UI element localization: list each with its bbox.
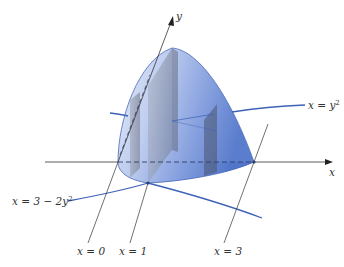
- x-axis-label: x: [329, 166, 335, 178]
- section-label-x1: x = 1: [119, 245, 147, 257]
- x-axis-arrow-icon: [325, 159, 333, 165]
- leader-x3: [224, 162, 254, 243]
- diagram-canvas: [0, 0, 344, 267]
- leader-x3-top: [270, 40, 296, 120]
- curve-x-eq-3-minus-2y-squared: [68, 183, 262, 218]
- intersection-point: [252, 160, 255, 163]
- section-label-x3: x = 3: [214, 245, 242, 257]
- leader-x3-upper: [254, 124, 268, 162]
- slab-x1-edge: [172, 48, 178, 152]
- leader-x0: [88, 162, 118, 243]
- y-axis-arrow-icon: [168, 16, 174, 26]
- section-label-x0: x = 0: [77, 245, 105, 257]
- y-axis-label: y: [176, 10, 182, 22]
- intersection-point: [146, 181, 149, 184]
- curve-label-upper: x = y2: [308, 99, 340, 111]
- solid-region-diagram: y x x = y2 x = 3 − 2y2 x = 0 x = 1 x = 3: [0, 0, 344, 267]
- curve-label-lower: x = 3 − 2y2: [12, 195, 73, 207]
- leader-x1: [130, 183, 148, 243]
- slab-x0: [130, 92, 140, 178]
